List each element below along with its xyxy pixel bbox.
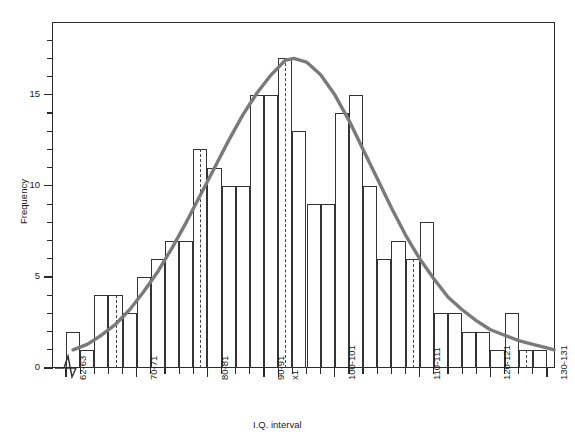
x-axis-tick-label: 62-63	[77, 356, 88, 380]
histogram-bar	[462, 332, 476, 368]
histogram-bar	[533, 350, 547, 368]
x-axis-minor-tick	[405, 368, 406, 374]
histogram-bar	[349, 95, 363, 368]
histogram-bar	[165, 241, 179, 368]
histogram-bar	[476, 332, 490, 368]
y-axis-title: Frequency	[18, 162, 29, 242]
histogram-bar	[335, 113, 349, 368]
histogram-bar	[123, 313, 137, 368]
x-axis-minor-tick	[377, 368, 378, 374]
histogram-bar	[377, 259, 391, 368]
histogram-bar	[292, 131, 306, 368]
y-axis-tick-label: 15	[12, 88, 40, 99]
histogram-bar	[207, 168, 221, 368]
histogram-bar	[420, 222, 434, 368]
dashed-reference-line	[116, 295, 117, 368]
x-axis-tick-label: 70-71	[148, 356, 159, 380]
x-axis-minor-tick	[249, 368, 250, 374]
histogram-bar	[179, 241, 193, 368]
x-axis-major-tick	[334, 368, 335, 377]
x-axis-tick-label: x1	[289, 370, 300, 380]
histogram-bar	[264, 95, 278, 368]
chart-figure: 051015 62-6370-7180-8190-91x1100-101110-…	[0, 0, 575, 441]
x-axis-minor-tick	[164, 368, 165, 374]
x-axis-minor-tick	[179, 368, 180, 374]
x-axis-minor-tick	[518, 368, 519, 374]
x-axis-major-tick	[546, 368, 547, 377]
x-axis-tick-label: 130-131	[558, 345, 569, 380]
dashed-reference-line	[285, 58, 286, 368]
dashed-reference-line	[413, 259, 414, 368]
y-axis-major-tick	[44, 185, 53, 186]
y-axis-major-tick	[44, 276, 53, 277]
x-axis-tick-label: 120-121	[501, 345, 512, 380]
x-axis-minor-tick	[94, 368, 95, 374]
x-axis-tick-label: 90-91	[275, 356, 286, 380]
histogram-bar	[250, 95, 264, 368]
x-axis-minor-tick	[532, 368, 533, 374]
dashed-reference-line	[200, 149, 201, 368]
dashed-reference-line	[526, 350, 527, 368]
x-axis-major-tick	[263, 368, 264, 377]
x-axis-minor-tick	[306, 368, 307, 374]
histogram-bar	[151, 259, 165, 368]
x-axis-major-tick	[65, 368, 66, 377]
x-axis-minor-tick	[391, 368, 392, 374]
histogram-bar	[391, 241, 405, 368]
histogram-bar	[222, 186, 236, 368]
x-axis-minor-tick	[320, 368, 321, 374]
x-axis-minor-tick	[235, 368, 236, 374]
x-axis-tick-label: 110-111	[431, 347, 442, 380]
histogram-bar	[236, 186, 250, 368]
histogram-bar	[321, 204, 335, 368]
x-axis-minor-tick	[462, 368, 463, 374]
histogram-bar	[363, 186, 377, 368]
y-axis-tick-label: 0	[12, 361, 40, 372]
x-axis-title: I.Q. interval	[253, 419, 302, 430]
y-axis-tick-label: 5	[12, 270, 40, 281]
x-axis-major-tick	[419, 368, 420, 377]
x-axis-minor-tick	[476, 368, 477, 374]
x-axis-major-tick	[207, 368, 208, 377]
histogram-bar	[448, 313, 462, 368]
histogram-bars	[53, 22, 555, 368]
x-axis-tick-label: 80-81	[219, 356, 230, 380]
x-axis-minor-tick	[108, 368, 109, 374]
x-axis-minor-tick	[193, 368, 194, 374]
y-axis-major-tick	[44, 94, 53, 95]
x-axis-minor-tick	[447, 368, 448, 374]
histogram-bar	[137, 277, 151, 368]
x-axis-minor-tick	[122, 368, 123, 374]
x-axis-major-tick	[490, 368, 491, 377]
y-axis-major-tick	[44, 367, 53, 368]
histogram-bar	[307, 204, 321, 368]
x-axis-major-tick	[136, 368, 137, 377]
x-axis-minor-tick	[362, 368, 363, 374]
x-axis-tick-label: 100-101	[346, 345, 357, 380]
histogram-bar	[94, 295, 108, 368]
